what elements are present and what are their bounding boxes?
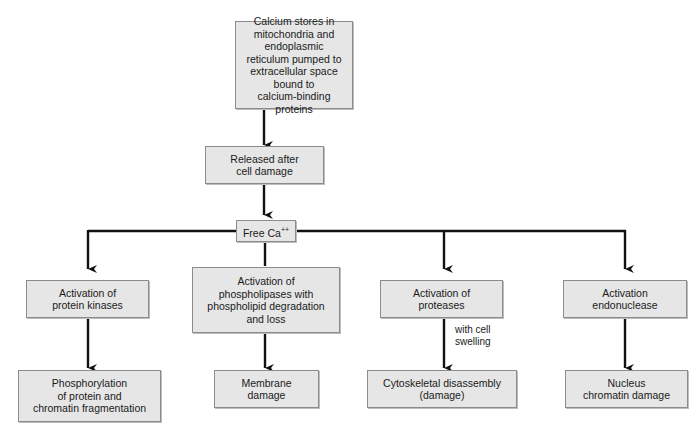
node-released-label: Released after cell damage xyxy=(230,153,298,178)
node-phospholipases: Activation of phospholipases with phosph… xyxy=(192,267,340,333)
node-membrane-damage-label: Membrane damage xyxy=(241,377,291,402)
node-released-after-damage: Released after cell damage xyxy=(205,146,324,184)
edge-note-cell-swelling: with cell swelling xyxy=(455,324,491,348)
node-phosphorylation-label: Phosphorylation of protein and chromatin… xyxy=(33,377,146,415)
node-phospholipases-label: Activation of phospholipases with phosph… xyxy=(207,275,324,325)
node-proteases-label: Activation of proteases xyxy=(413,287,470,312)
node-proteases: Activation of proteases xyxy=(380,280,503,318)
figure-caption-truncated xyxy=(240,421,680,430)
node-membrane-damage: Membrane damage xyxy=(214,370,319,408)
node-nucleus-chromatin: Nucleus chromatin damage xyxy=(565,370,688,408)
node-endonuclease: Activation endonuclease xyxy=(563,280,687,318)
node-free-calcium-label: Free Ca++ xyxy=(243,224,289,239)
node-cytoskeletal-disassembly: Cytoskeletal disassembly (damage) xyxy=(367,370,517,408)
node-phosphorylation: Phosphorylation of protein and chromatin… xyxy=(18,370,161,422)
node-protein-kinases: Activation of protein kinases xyxy=(26,280,149,318)
node-free-calcium: Free Ca++ xyxy=(236,220,296,242)
node-protein-kinases-label: Activation of protein kinases xyxy=(52,287,123,312)
node-cytoskeletal-label: Cytoskeletal disassembly (damage) xyxy=(383,377,501,402)
node-nucleus-label: Nucleus chromatin damage xyxy=(583,377,670,402)
node-calcium-stores-label: Calcium stores in mitochondria and endop… xyxy=(240,15,348,115)
node-calcium-stores: Calcium stores in mitochondria and endop… xyxy=(235,21,353,109)
node-endonuclease-label: Activation endonuclease xyxy=(592,287,657,312)
